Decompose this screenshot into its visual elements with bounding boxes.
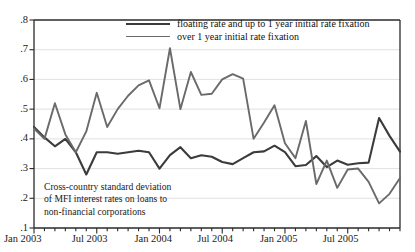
- y-axis-tick-label: .5: [6, 104, 28, 115]
- x-axis-tick-label: Jan 2004: [134, 234, 172, 245]
- y-axis-tick-label: .7: [6, 44, 28, 55]
- y-axis-tick-label: .6: [6, 74, 28, 85]
- y-axis-tick-label: .1: [6, 223, 28, 234]
- y-axis-tick-label: .3: [6, 163, 28, 174]
- y-axis-ticks: [30, 20, 35, 228]
- legend-label-floating-rate: floating rate and up to 1 year initial r…: [177, 19, 369, 29]
- annotation-line-2: of MFI interest rates on loans to: [44, 193, 171, 205]
- annotation-line-1: Cross-country standard deviation: [44, 181, 171, 193]
- legend-label-over-1-year: over 1 year initial rate fixation: [177, 32, 299, 42]
- y-axis-tick-label: .4: [6, 133, 28, 144]
- x-axis-tick-label: Jan 2005: [260, 234, 298, 245]
- legend-item-over-1-year: over 1 year initial rate fixation: [126, 30, 369, 43]
- chart-legend: floating rate and up to 1 year initial r…: [126, 17, 369, 43]
- y-axis-tick-label: .8: [6, 15, 28, 26]
- y-axis-tick-label: .2: [6, 193, 28, 204]
- x-axis-tick-label: Jul 2005: [323, 234, 359, 245]
- chart-container: .8.7.6.5.4.3.2.1 Jan 2003Jul 2003Jan 200…: [0, 0, 415, 252]
- series-line-0: [34, 118, 400, 174]
- annotation-line-3: non-financial corporations: [44, 206, 171, 218]
- x-axis-tick-label: Jul 2003: [72, 234, 108, 245]
- legend-line-swatch-icon: [126, 36, 170, 37]
- legend-item-floating-rate: floating rate and up to 1 year initial r…: [126, 17, 369, 30]
- x-axis-tick-label: Jan 2003: [4, 234, 42, 245]
- legend-line-swatch-icon: [126, 23, 170, 25]
- chart-annotation: Cross-country standard deviation of MFI …: [44, 181, 171, 218]
- x-axis-tick-label: Jul 2004: [197, 234, 233, 245]
